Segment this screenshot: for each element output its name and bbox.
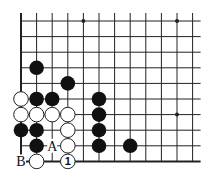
go-board-diagram: 1AB [0, 0, 216, 188]
black-stone [61, 76, 76, 91]
black-stone [29, 139, 44, 154]
stone-number-label: 1 [65, 155, 71, 167]
black-stone [123, 139, 138, 154]
point-letter-label: A [47, 139, 58, 154]
black-stone [14, 123, 29, 138]
point-letter-label: B [16, 154, 25, 169]
hoshi-point [175, 113, 179, 117]
black-stone [29, 61, 44, 76]
white-stone [14, 107, 29, 122]
white-stone [45, 107, 60, 122]
hoshi-point [81, 19, 85, 23]
hoshi-point [175, 19, 179, 23]
black-stone [92, 123, 107, 138]
black-stone [92, 92, 107, 107]
white-stone [14, 92, 29, 107]
black-stone [92, 139, 107, 154]
white-stone [29, 107, 44, 122]
black-stone [92, 107, 107, 122]
black-stone [29, 123, 44, 138]
white-stone [29, 154, 44, 169]
white-stone [61, 107, 76, 122]
white-stone [61, 123, 76, 138]
black-stone [45, 92, 60, 107]
white-stone [61, 139, 76, 154]
black-stone [29, 92, 44, 107]
